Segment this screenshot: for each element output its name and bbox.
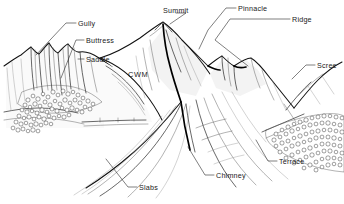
label-summit: Summit <box>163 6 189 15</box>
label-buttress: Buttress <box>86 36 114 45</box>
label-ridge: Ridge <box>292 15 312 24</box>
label-cwm: CWM <box>128 70 148 79</box>
label-pinnacle: Pinnacle <box>238 4 267 13</box>
mountain-features-diagram: Gully Buttress Saddle Summit Pinnacle Ri… <box>0 0 344 204</box>
diagram-canvas: Gully Buttress Saddle Summit Pinnacle Ri… <box>0 0 344 204</box>
label-scree: Scree <box>317 61 337 70</box>
label-saddle: Saddle <box>86 55 110 64</box>
label-terrace: Terrace <box>279 157 304 166</box>
label-slabs: Slabs <box>139 183 158 192</box>
label-chimney: Chimney <box>216 171 246 180</box>
label-gully: Gully <box>78 19 96 28</box>
